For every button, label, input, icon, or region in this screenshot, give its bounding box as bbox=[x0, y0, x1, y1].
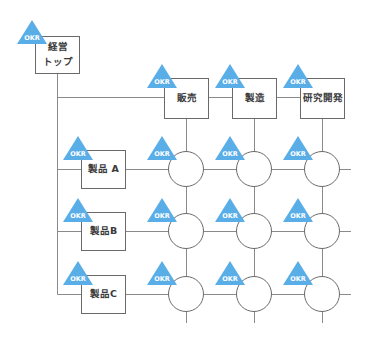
okr-badge-icon: OKR bbox=[215, 198, 245, 222]
function-label: 販売 bbox=[177, 91, 197, 106]
okr-badge-icon: OKR bbox=[283, 64, 313, 88]
okr-badge-icon: OKR bbox=[215, 136, 245, 160]
okr-badge-icon: OKR bbox=[17, 20, 47, 44]
okr-badge-icon: OKR bbox=[63, 136, 93, 160]
okr-badge-icon: OKR bbox=[283, 136, 313, 160]
okr-badge-icon: OKR bbox=[283, 198, 313, 222]
product-label: 製品 A bbox=[88, 162, 119, 177]
okr-badge-icon: OKR bbox=[147, 64, 177, 88]
matrix-org-diagram: 経営 トップ 販売 製造 研究開発 製品 A 製品B 製品C OKR OKR O… bbox=[0, 0, 372, 343]
okr-badge-icon: OKR bbox=[147, 261, 177, 285]
product-label: 製品C bbox=[90, 287, 117, 302]
okr-badge-icon: OKR bbox=[215, 261, 245, 285]
top-management-label-line1: 経営 bbox=[48, 40, 68, 55]
top-management-label-line2: トップ bbox=[43, 55, 73, 70]
okr-badge-icon: OKR bbox=[147, 136, 177, 160]
function-label: 製造 bbox=[245, 91, 265, 106]
okr-badge-icon: OKR bbox=[215, 64, 245, 88]
function-label: 研究開発 bbox=[303, 91, 343, 106]
product-label: 製品B bbox=[90, 224, 117, 239]
okr-badge-icon: OKR bbox=[147, 198, 177, 222]
okr-badge-icon: OKR bbox=[63, 261, 93, 285]
okr-badge-icon: OKR bbox=[63, 198, 93, 222]
okr-badge-icon: OKR bbox=[283, 261, 313, 285]
